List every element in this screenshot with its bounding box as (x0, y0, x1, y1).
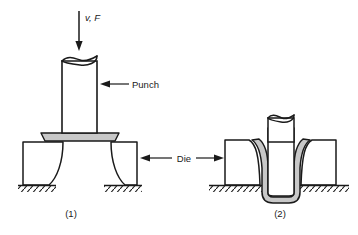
deep-drawing-figure: v, F (0, 0, 358, 235)
die-block-left-stage1 (23, 142, 63, 185)
caption-stage-1: (1) (65, 208, 77, 219)
die-block-right-stage2 (301, 140, 336, 185)
sheet-metal-blank-stage1 (41, 133, 119, 141)
punch-leader-arrow (100, 81, 129, 88)
die-label: Die (177, 153, 191, 164)
punch-body-stage1 (62, 61, 97, 133)
punch-label: Punch (132, 79, 159, 90)
ground-support-left-stage1 (18, 186, 56, 193)
figure-canvas: v, F (0, 0, 358, 235)
ground-support-left-stage2 (209, 186, 262, 193)
stage-1-group: v, F (18, 11, 159, 219)
stage-2-group: (2) (209, 115, 349, 219)
die-block-right-stage1 (111, 142, 137, 185)
ground-support-right-stage1 (104, 186, 142, 193)
caption-stage-2: (2) (274, 208, 286, 219)
force-arrow (75, 11, 82, 51)
force-label: v, F (85, 12, 101, 23)
ground-support-right-stage2 (299, 186, 349, 193)
die-block-left-stage2 (225, 140, 260, 185)
die-leader-group: Die (140, 150, 224, 166)
